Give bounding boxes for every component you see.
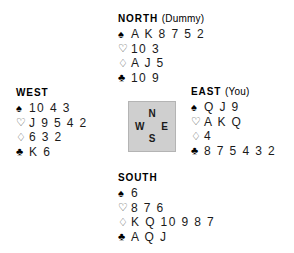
hand-south-label: SOUTH xyxy=(118,172,215,183)
diamond-icon: ♢ xyxy=(118,58,131,69)
club-icon: ♣ xyxy=(118,72,131,83)
hand-west-clubs-row: ♣ K 6 xyxy=(16,145,88,160)
hand-north-diamonds-row: ♢ A J 5 xyxy=(118,56,205,71)
hand-south-spades: 6 xyxy=(131,187,139,199)
hand-south: SOUTH ♠ 6 ♡ 8 7 6 ♢ K Q 10 9 8 7 ♣ A Q J xyxy=(118,172,215,244)
heart-icon: ♡ xyxy=(191,116,204,127)
hand-south-clubs: A Q J xyxy=(131,231,167,243)
hand-west-label: WEST xyxy=(16,87,88,98)
hand-east-clubs: 8 7 5 4 3 2 xyxy=(204,145,276,157)
hand-east-spades: Q J 9 xyxy=(204,101,240,113)
diamond-icon: ♢ xyxy=(191,131,204,142)
hand-east-role: (You) xyxy=(225,86,250,97)
hand-north-clubs: 10 9 xyxy=(131,72,160,84)
hand-north-clubs-row: ♣ 10 9 xyxy=(118,71,205,86)
bridge-hand-diagram: NORTH (Dummy) ♠ A K 8 7 5 2 ♡ 10 3 ♢ A J… xyxy=(0,0,294,253)
spade-icon: ♠ xyxy=(118,188,131,199)
spade-icon: ♠ xyxy=(191,102,204,113)
hand-south-seat: SOUTH xyxy=(118,172,158,183)
hand-west-spades: 10 4 3 xyxy=(29,102,71,114)
hand-west-hearts-row: ♡ J 9 5 4 2 xyxy=(16,116,88,131)
hand-east-hearts: A K Q xyxy=(204,116,242,128)
hand-south-spades-row: ♠ 6 xyxy=(118,186,215,201)
hand-north-hearts: 10 3 xyxy=(131,43,160,55)
club-icon: ♣ xyxy=(118,231,131,242)
hand-east-hearts-row: ♡ A K Q xyxy=(191,115,276,130)
hand-south-diamonds-row: ♢ K Q 10 9 8 7 xyxy=(118,215,215,230)
club-icon: ♣ xyxy=(191,145,204,156)
spade-icon: ♠ xyxy=(16,103,29,114)
hand-west-diamonds: 6 3 2 xyxy=(29,131,63,143)
diamond-icon: ♢ xyxy=(118,217,131,228)
hand-north-seat: NORTH xyxy=(118,13,158,24)
hand-east-diamonds: 4 xyxy=(204,130,212,142)
hand-west-clubs: K 6 xyxy=(29,146,51,158)
spade-icon: ♠ xyxy=(118,29,131,40)
hand-east-label: EAST (You) xyxy=(191,86,276,97)
hand-east-clubs-row: ♣ 8 7 5 4 3 2 xyxy=(191,144,276,159)
club-icon: ♣ xyxy=(16,146,29,157)
hand-east: EAST (You) ♠ Q J 9 ♡ A K Q ♢ 4 ♣ 8 7 5 4… xyxy=(191,86,276,158)
hand-south-hearts: 8 7 6 xyxy=(131,202,165,214)
hand-west-hearts: J 9 5 4 2 xyxy=(29,117,88,129)
hand-north: NORTH (Dummy) ♠ A K 8 7 5 2 ♡ 10 3 ♢ A J… xyxy=(118,13,205,85)
diamond-icon: ♢ xyxy=(16,132,29,143)
hand-east-seat: EAST xyxy=(191,86,221,97)
hand-north-label: NORTH (Dummy) xyxy=(118,13,205,24)
compass-box: N W E S xyxy=(128,101,176,152)
heart-icon: ♡ xyxy=(16,117,29,128)
compass-south-label: S xyxy=(129,134,175,144)
heart-icon: ♡ xyxy=(118,202,131,213)
hand-south-clubs-row: ♣ A Q J xyxy=(118,230,215,245)
hand-north-spades-row: ♠ A K 8 7 5 2 xyxy=(118,27,205,42)
hand-east-spades-row: ♠ Q J 9 xyxy=(191,100,276,115)
hand-south-diamonds: K Q 10 9 8 7 xyxy=(131,216,215,228)
hand-east-diamonds-row: ♢ 4 xyxy=(191,129,276,144)
hand-west: WEST ♠ 10 4 3 ♡ J 9 5 4 2 ♢ 6 3 2 ♣ K 6 xyxy=(16,87,88,159)
hand-north-hearts-row: ♡ 10 3 xyxy=(118,42,205,57)
hand-west-spades-row: ♠ 10 4 3 xyxy=(16,101,88,116)
hand-west-diamonds-row: ♢ 6 3 2 xyxy=(16,130,88,145)
hand-north-spades: A K 8 7 5 2 xyxy=(131,28,205,40)
hand-south-hearts-row: ♡ 8 7 6 xyxy=(118,201,215,216)
compass-north-label: N xyxy=(129,109,175,119)
heart-icon: ♡ xyxy=(118,43,131,54)
compass-east-label: E xyxy=(161,122,168,132)
hand-west-seat: WEST xyxy=(16,87,49,98)
compass-west-label: W xyxy=(135,122,144,132)
hand-north-diamonds: A J 5 xyxy=(131,57,165,69)
hand-north-role: (Dummy) xyxy=(162,13,205,24)
